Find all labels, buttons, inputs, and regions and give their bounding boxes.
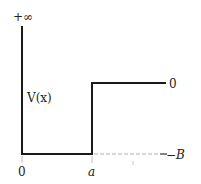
origin-label: 0 (18, 165, 26, 179)
potential-well-diagram: +∞ V(x) 0 a 0 −B (0, 0, 201, 184)
minus-b-label: −B (166, 148, 185, 162)
v-of-x-label: V(x) (26, 91, 52, 105)
zero-level-label: 0 (169, 77, 177, 91)
plus-infinity-label: +∞ (13, 10, 33, 24)
a-label: a (88, 165, 95, 179)
